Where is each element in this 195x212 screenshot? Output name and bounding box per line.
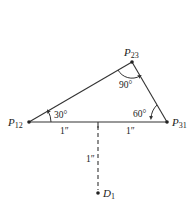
angle-label-60: 60° (133, 109, 147, 119)
dimension-perpendicular: 1″ (86, 154, 95, 164)
side-p12-p23 (29, 62, 132, 122)
point-p31 (165, 120, 169, 124)
angle-label-90: 90° (119, 80, 133, 90)
label-p12: P12 (7, 116, 23, 130)
angle-arc-90 (118, 70, 140, 78)
label-p23: P23 (123, 46, 139, 60)
angle-arc-30 (48, 111, 51, 122)
label-p31: P31 (171, 116, 187, 130)
point-d1 (96, 191, 100, 195)
angle-label-30: 30° (54, 110, 68, 120)
dimension-left: 1″ (60, 126, 69, 136)
point-p23 (130, 60, 134, 64)
triangle-diagram: P12 P23 P31 D1 30° 90° 60° 1″ 1″ 1″ (0, 0, 195, 212)
angle-arc-60 (151, 105, 157, 118)
point-p12 (27, 120, 31, 124)
dimension-right: 1″ (126, 126, 135, 136)
label-d1: D1 (102, 187, 115, 201)
